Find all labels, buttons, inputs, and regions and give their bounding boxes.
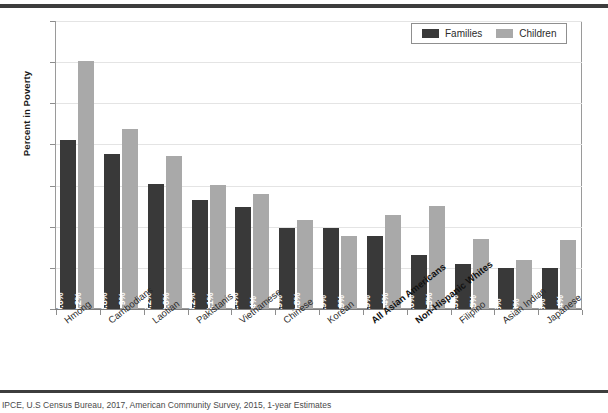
bar-children: 21.9% [122, 129, 138, 309]
bar-group: 8.9%11.4% [363, 21, 407, 309]
x-tick-mark [100, 310, 101, 315]
legend-swatch-families-icon [422, 29, 439, 38]
x-tick-mark [275, 310, 276, 315]
bar-group: 9.9%10.8% [275, 21, 319, 309]
x-tick-mark [538, 310, 539, 315]
bar-group: 12.4%14% [231, 21, 275, 309]
legend-item-children: Children [496, 28, 556, 39]
y-tick-mark-30 [50, 62, 55, 63]
bar-value-label: 8.9% [359, 295, 375, 315]
y-tick-mark-10 [50, 227, 55, 228]
bar-value-label: 9.9% [315, 295, 331, 315]
x-tick-mark [494, 310, 495, 315]
x-tick-mark [363, 310, 364, 315]
y-tick-mark-35 [50, 21, 55, 22]
bar-children: 18.6% [166, 156, 182, 309]
x-tick-mark [451, 310, 452, 315]
bar-group: 13.2%15.1% [188, 21, 232, 309]
bar-group: 5%8.4% [538, 21, 582, 309]
x-tick-mark [56, 310, 57, 315]
chart-legend: Families Children [411, 23, 567, 44]
bars-layer: 20.6%30.2%18.8%21.9%15.2%18.6%13.2%15.1%… [56, 21, 582, 309]
bar-group: 15.2%18.6% [144, 21, 188, 309]
x-tick-mark [407, 310, 408, 315]
poverty-bar-chart-figure: Percent in Poverty 05101520253035 20.6%3… [0, 10, 608, 382]
x-tick-mark [144, 310, 145, 315]
bar-families: 18.8% [104, 154, 120, 309]
bar-children: 15.1% [210, 185, 226, 309]
bar-families: 12.4% [235, 207, 251, 309]
bar-children: 30.2% [78, 61, 94, 310]
y-tick-mark-5 [50, 268, 55, 269]
x-tick-mark [231, 310, 232, 315]
source-note: IPCE, U.S Census Bureau, 2017, American … [2, 400, 331, 410]
x-tick-mark [582, 310, 583, 315]
legend-label-families: Families [445, 28, 482, 39]
x-tick-mark [319, 310, 320, 315]
y-tick-mark-15 [50, 186, 55, 187]
footer-divider-rule [0, 390, 608, 393]
bar-group: 20.6%30.2% [56, 21, 100, 309]
y-tick-mark-20 [50, 144, 55, 145]
legend-label-children: Children [519, 28, 556, 39]
bar-children: 14% [253, 194, 269, 309]
legend-item-families: Families [422, 28, 482, 39]
bar-group: 9.9%8.9% [319, 21, 363, 309]
x-tick-mark [188, 310, 189, 315]
bar-group: 5%6% [494, 21, 538, 309]
y-tick-mark-25 [50, 103, 55, 104]
y-axis-title: Percent in Poverty [21, 24, 32, 204]
legend-swatch-children-icon [496, 29, 513, 38]
bar-group: 18.8%21.9% [100, 21, 144, 309]
bar-families: 20.6% [60, 140, 76, 310]
top-divider-rule [0, 4, 608, 8]
bar-children: 10.8% [297, 220, 313, 309]
